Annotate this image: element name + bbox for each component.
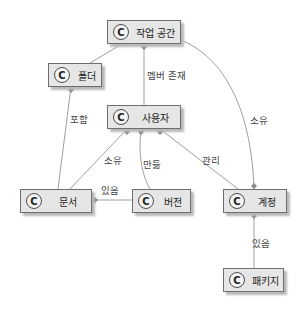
class-icon: C [113,109,129,125]
node-label: 폴더 [76,68,101,83]
class-icon: C [229,193,245,209]
edge-user-account [160,129,238,189]
node-label: 패키지 [251,273,283,288]
node-label: 계정 [251,194,286,209]
class-node-version[interactable]: C 버전 [132,189,191,213]
class-node-document[interactable]: C 문서 [20,189,92,213]
edge-folder-document [58,87,71,189]
edge-label-has-package: 있음 [252,236,270,250]
node-label: 사용자 [135,110,180,125]
class-icon: C [54,67,70,83]
node-label: 버전 [160,194,190,209]
class-icon: C [113,24,129,40]
class-node-user[interactable]: C 사용자 [107,105,181,129]
class-icon: C [26,193,42,209]
edge-label-creates: 만듦 [143,157,161,171]
class-node-account[interactable]: C 계정 [223,189,287,213]
edge-label-has-version: 있음 [101,183,119,197]
edge-label-manages: 관리 [202,153,220,167]
edge-workspace-folder [90,44,122,63]
edge-label-workspace-owns: 소유 [250,113,268,127]
class-node-package[interactable]: C 패키지 [223,268,284,292]
edge-label-user-owns: 소유 [104,153,122,167]
class-icon: C [229,272,245,288]
class-node-folder[interactable]: C 폴더 [48,63,102,87]
edges-layer [0,0,303,311]
node-label: 작업 공간 [135,25,180,40]
edge-label-member: 멤버 존재 [147,68,186,82]
class-node-workspace[interactable]: C 작업 공간 [107,20,181,44]
node-label: 문서 [48,194,91,209]
edge-label-contains: 포함 [70,112,88,126]
class-icon: C [138,193,154,209]
